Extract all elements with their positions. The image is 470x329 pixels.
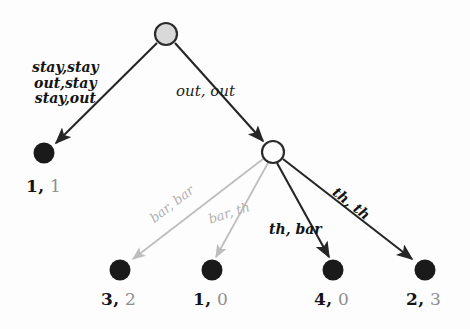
tree-edges-canvas	[0, 0, 470, 329]
edge-label-th-bar: th, bar	[269, 222, 322, 238]
game-tree-figure: stay,stay out,stay stay,out out, out bar…	[0, 0, 470, 329]
payoff-5-player2: 3	[430, 289, 441, 309]
second-decision-node[interactable]	[262, 141, 284, 163]
payoff-5-player1: 2,	[406, 289, 424, 309]
terminal-node-5[interactable]	[415, 260, 436, 281]
payoff-2-player1: 3,	[101, 289, 119, 309]
payoff-label-1: 1, 1	[26, 176, 61, 196]
payoff-1-player2: 1	[50, 176, 61, 196]
payoff-4-player1: 4,	[314, 289, 332, 309]
root-decision-node[interactable]	[155, 23, 177, 45]
edge-th-bar	[277, 163, 329, 257]
edge-label-out-out: out, out	[176, 83, 235, 100]
payoff-3-player2: 0	[217, 289, 228, 309]
payoff-3-player1: 1,	[193, 289, 211, 309]
terminal-node-1[interactable]	[34, 143, 55, 164]
terminal-node-4[interactable]	[323, 260, 344, 281]
terminal-node-2[interactable]	[110, 260, 131, 281]
payoff-label-4: 4, 0	[314, 289, 349, 309]
payoff-label-5: 2, 3	[406, 289, 441, 309]
edge-label-stay-out: stay,out	[32, 91, 99, 107]
payoff-2-player2: 2	[125, 289, 136, 309]
payoff-label-2: 3, 2	[101, 289, 136, 309]
payoff-4-player2: 0	[338, 289, 349, 309]
payoff-1-player1: 1,	[26, 176, 44, 196]
edge-label-out-stay: out,stay	[32, 76, 99, 92]
edge-label-stay-stay: stay,stay	[32, 60, 99, 76]
terminal-node-3[interactable]	[202, 260, 223, 281]
edge-label-stay-block: stay,stay out,stay stay,out	[32, 60, 99, 107]
payoff-label-3: 1, 0	[193, 289, 228, 309]
